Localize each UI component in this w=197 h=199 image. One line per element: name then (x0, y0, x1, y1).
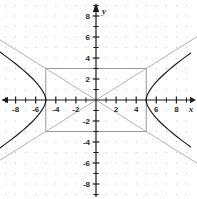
grid-dot (156, 152, 157, 153)
grid-dot (156, 58, 157, 59)
grid-dot (136, 89, 137, 90)
grid-dot (15, 173, 16, 174)
grid-dot (116, 79, 117, 80)
grid-dot (35, 131, 36, 132)
axis-names: xy (101, 6, 194, 114)
grid-dot (146, 37, 147, 38)
grid-dot (75, 47, 76, 48)
grid-dot (166, 79, 167, 80)
grid-dot (136, 16, 137, 17)
grid-dot (166, 121, 167, 122)
grid-dot (106, 173, 107, 174)
grid-dot (106, 89, 107, 90)
grid-dot (176, 68, 177, 69)
grid-dot (126, 16, 127, 17)
grid-dot (25, 194, 26, 195)
grid-dot (176, 163, 177, 164)
grid-dot (106, 26, 107, 27)
grid-dot (85, 5, 86, 6)
grid-dot (25, 173, 26, 174)
grid-dot (116, 121, 117, 122)
grid-dot (75, 89, 76, 90)
grid-dot (106, 152, 107, 153)
grid-dot (35, 89, 36, 90)
grid-dot (166, 152, 167, 153)
grid-dot (5, 16, 6, 17)
grid-dot (35, 163, 36, 164)
grid-dot (65, 79, 66, 80)
grid-dot (5, 47, 6, 48)
grid-dot (15, 68, 16, 69)
grid-dot (25, 89, 26, 90)
grid-dot (75, 142, 76, 143)
grid-dot (45, 194, 46, 195)
grid-dot (5, 79, 6, 80)
grid-dot (116, 142, 117, 143)
grid-dot (186, 163, 187, 164)
grid-dot (15, 47, 16, 48)
grid-dot (116, 89, 117, 90)
grid-dot (85, 152, 86, 153)
grid-dot (126, 47, 127, 48)
grid-dot (136, 47, 137, 48)
grid-dot (45, 184, 46, 185)
y-tick-label: 8 (86, 12, 91, 21)
grid-dot (55, 173, 56, 174)
grid-dot (5, 26, 6, 27)
grid-dot (116, 163, 117, 164)
grid-dot (166, 68, 167, 69)
grid-dot (146, 163, 147, 164)
x-tick-label: -6 (32, 105, 40, 114)
grid-dot (106, 110, 107, 111)
grid-dot (126, 58, 127, 59)
grid-dot (186, 26, 187, 27)
grid-dot (146, 47, 147, 48)
grid-dot (55, 89, 56, 90)
grid-dot (106, 37, 107, 38)
grid-dot (186, 68, 187, 69)
grid-dot (156, 5, 157, 6)
grid-dot (85, 173, 86, 174)
grid-dot (186, 184, 187, 185)
grid-dot (35, 184, 36, 185)
grid-dot (126, 121, 127, 122)
grid-dot (146, 16, 147, 17)
grid-dot (75, 26, 76, 27)
grid-dot (126, 89, 127, 90)
grid-dot (176, 89, 177, 90)
grid-dot (156, 173, 157, 174)
grid-dot (126, 110, 127, 111)
grid-dot (156, 26, 157, 27)
grid-dot (126, 26, 127, 27)
grid-dot (5, 184, 6, 185)
grid-dot (166, 26, 167, 27)
grid-dot (65, 5, 66, 6)
grid-dot (5, 152, 6, 153)
grid-dot (35, 58, 36, 59)
grid-dot (85, 26, 86, 27)
grid-dot (45, 37, 46, 38)
grid-dot (25, 121, 26, 122)
hyperbola-right-branch (146, 53, 190, 100)
grid-dot (116, 152, 117, 153)
grid-dot (186, 110, 187, 111)
grid-dot (126, 152, 127, 153)
y-tick-label: -4 (83, 138, 91, 147)
grid-dot (186, 37, 187, 38)
grid-dot (166, 47, 167, 48)
grid-dot (75, 16, 76, 17)
x-axis-arrow-left (2, 97, 8, 103)
grid-dot (176, 16, 177, 17)
grid-dot (186, 5, 187, 6)
grid-dot (75, 58, 76, 59)
grid-dot (5, 58, 6, 59)
grid-dot (176, 121, 177, 122)
grid-dot (25, 26, 26, 27)
grid-dot (106, 163, 107, 164)
x-tick-label: 8 (174, 105, 179, 114)
grid-dot (156, 131, 157, 132)
grid-dot (55, 58, 56, 59)
grid-dot (5, 37, 6, 38)
grid-dot (5, 110, 6, 111)
grid-dot (156, 89, 157, 90)
